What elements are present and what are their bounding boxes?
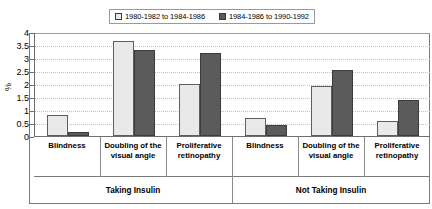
category-separator: [298, 137, 299, 177]
y-axis-tick-label: 1: [24, 107, 29, 116]
y-axis-tick-label: 3.5: [16, 42, 29, 51]
legend-swatch-series-a: [115, 13, 122, 20]
bar-chart: 1980-1982 to 1984-1986 1984-1986 to 1990…: [0, 0, 432, 209]
category-separator: [364, 137, 365, 177]
category-label: Blindness: [34, 137, 100, 177]
legend-label-series-b: 1984-1986 to 1990-1992: [229, 12, 309, 21]
bar-series-b: [134, 50, 155, 136]
category-separator: [100, 137, 101, 177]
bar-series-b: [398, 100, 419, 136]
legend-swatch-series-b: [219, 13, 226, 20]
bar-series-a: [311, 86, 332, 136]
bar-series-a: [377, 121, 398, 136]
legend-entry-series-b: 1984-1986 to 1990-1992: [219, 12, 309, 21]
plot-area: [34, 33, 430, 137]
bar-series-a: [113, 41, 134, 136]
group-separator: [232, 177, 233, 203]
bar-series-a: [47, 115, 68, 136]
y-axis-tick-label: 0: [24, 133, 29, 142]
category-separator: [166, 137, 167, 177]
y-axis-tick-label: 1.5: [16, 94, 29, 103]
category-label-band: BlindnessDoubling of the visual anglePro…: [34, 137, 430, 177]
category-label: Blindness: [232, 137, 298, 177]
y-axis-tick-label: 2: [24, 81, 29, 90]
legend-entry-series-a: 1980-1982 to 1984-1986: [115, 12, 205, 21]
y-axis-tick-label: 0.5: [16, 120, 29, 129]
bar-series-b: [266, 125, 287, 136]
legend-label-series-a: 1980-1982 to 1984-1986: [125, 12, 205, 21]
bar-series-b: [332, 70, 353, 136]
group-label: Taking Insulin: [34, 177, 232, 203]
y-axis-tick-label: 3: [24, 55, 29, 64]
category-label: Doubling of the visual angle: [100, 137, 166, 177]
category-separator: [232, 137, 233, 177]
group-label-band: Taking InsulinNot Taking Insulin: [34, 177, 430, 203]
y-axis-tick-label: 2.5: [16, 68, 29, 77]
y-axis-tick-label: 4: [24, 29, 29, 38]
chart-legend: 1980-1982 to 1984-1986 1984-1986 to 1990…: [109, 9, 315, 24]
category-label: Proliferative retinopathy: [166, 137, 232, 177]
group-label: Not Taking Insulin: [232, 177, 430, 203]
bar-series-a: [179, 84, 200, 136]
category-label: Doubling of the visual angle: [298, 137, 364, 177]
category-label: Proliferative retinopathy: [364, 137, 430, 177]
bar-series-b: [200, 53, 221, 136]
bar-series-b: [68, 132, 89, 136]
bar-series-a: [245, 118, 266, 136]
y-axis-ticks: 00.511.522.533.54: [0, 33, 34, 137]
bars-layer: [35, 33, 430, 136]
